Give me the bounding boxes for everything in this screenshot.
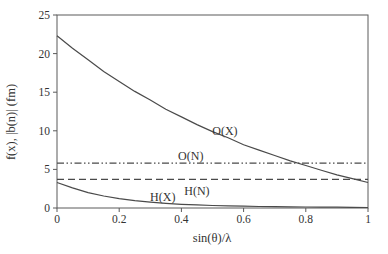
curve-label-o-n: O(N)	[178, 149, 203, 163]
figure: sin(θ)/λ f(x), |b(n)| (fm) 00.20.40.60.8…	[0, 0, 388, 254]
y-tick-label: 10	[39, 125, 51, 137]
curve-label-h-n: H(N)	[184, 184, 209, 198]
y-tick-label: 0	[44, 202, 50, 214]
x-tick-label: 0.4	[174, 213, 189, 225]
x-tick-label: 0.2	[112, 213, 127, 225]
y-tick-label: 25	[39, 9, 51, 21]
y-axis-label: f(x), |b(n)| (fm)	[4, 84, 18, 160]
y-tick-label: 5	[44, 163, 50, 175]
y-tick-label: 20	[39, 48, 51, 60]
chart-canvas: sin(θ)/λ f(x), |b(n)| (fm) 00.20.40.60.8…	[0, 0, 388, 254]
y-tick-label: 15	[39, 86, 51, 98]
curve-label-h-x: H(X)	[150, 190, 175, 204]
curve-h-x	[57, 183, 368, 208]
x-axis-label: sin(θ)/λ	[193, 231, 231, 245]
curve-label-o-x: O(X)	[212, 124, 237, 138]
x-tick-label: 0.8	[299, 213, 314, 225]
curve-o-x	[57, 36, 368, 183]
x-tick-label: 1	[365, 213, 371, 225]
x-tick-label: 0.6	[236, 213, 251, 225]
x-tick-label: 0	[54, 213, 60, 225]
